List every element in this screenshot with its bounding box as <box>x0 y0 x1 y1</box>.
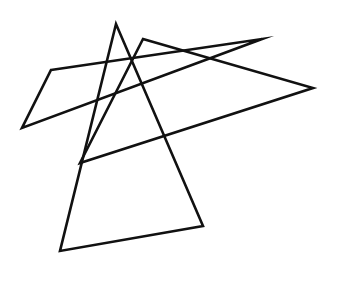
triangles-figure <box>0 0 342 293</box>
figure-background <box>0 0 342 293</box>
drawing-canvas <box>0 0 342 293</box>
